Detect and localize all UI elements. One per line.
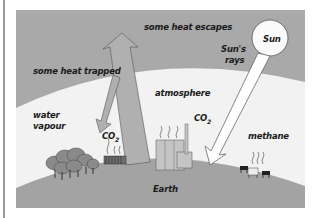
label-sun: Sun <box>263 34 281 44</box>
label-earth: Earth <box>153 184 178 194</box>
label-co2-left: CO2 <box>102 131 119 145</box>
label-water-vapour-1: water <box>33 110 60 120</box>
label-suns-rays-2: rays <box>225 55 244 65</box>
label-atmosphere: atmosphere <box>155 88 210 98</box>
label-heat-escapes: some heat escapes <box>144 22 232 32</box>
label-water-vapour-2: vapour <box>33 121 65 131</box>
label-heat-trapped: some heat trapped <box>33 66 121 76</box>
label-suns-rays-1: Sun's <box>221 44 246 54</box>
label-methane: methane <box>248 131 289 141</box>
label-co2-right: CO2 <box>194 113 211 127</box>
